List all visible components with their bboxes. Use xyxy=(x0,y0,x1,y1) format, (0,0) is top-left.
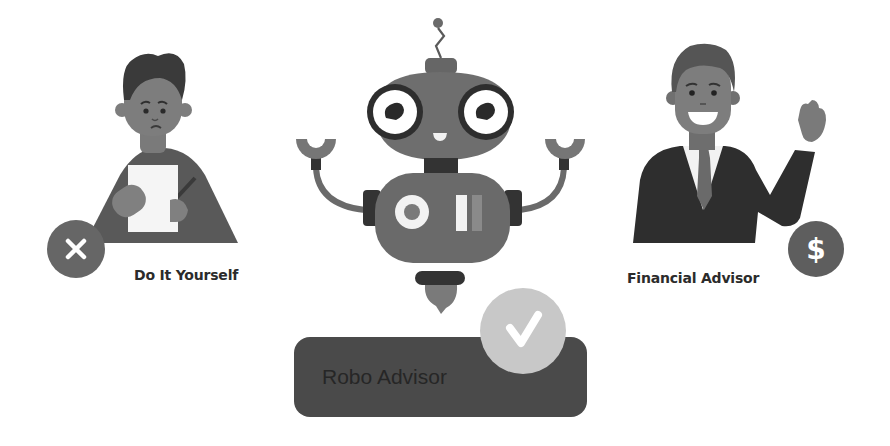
rejected-badge xyxy=(47,220,105,278)
robot-figure xyxy=(296,18,585,314)
dollar-badge: $ xyxy=(788,221,844,277)
robo-advisor-label: Robo Advisor xyxy=(322,365,447,389)
selected-badge xyxy=(480,288,566,374)
advisor-figure xyxy=(633,44,826,243)
comparison-illustration: Robo Advisor $ Do It Yourself Financial … xyxy=(0,0,890,446)
x-icon xyxy=(47,220,105,278)
financial-advisor-option-label[interactable]: Financial Advisor xyxy=(627,270,759,286)
dollar-icon: $ xyxy=(806,233,825,266)
diy-option-label[interactable]: Do It Yourself xyxy=(134,267,238,283)
checkmark-icon xyxy=(480,288,566,374)
diy-figure xyxy=(85,53,238,243)
